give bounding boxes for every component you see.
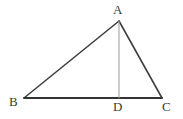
side-ac-line [119, 21, 162, 98]
vertex-label-d: D [113, 100, 122, 113]
vertex-label-b: B [9, 95, 18, 108]
vertex-label-c: C [162, 100, 171, 113]
geometry-figure: A B D C [0, 0, 183, 119]
triangle-diagram-svg [0, 0, 183, 119]
side-ab-line [24, 21, 119, 98]
vertex-label-a: A [113, 3, 122, 16]
